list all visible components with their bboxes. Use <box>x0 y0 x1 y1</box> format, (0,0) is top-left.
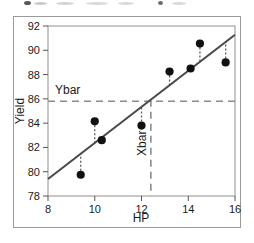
regression-line-group <box>48 35 235 179</box>
y-tick-label: 86 <box>28 93 40 105</box>
y-tick-label: 90 <box>28 44 40 56</box>
data-point <box>98 136 106 144</box>
y-tick-label: 82 <box>28 141 40 153</box>
y-tick-label: 88 <box>28 69 40 81</box>
plot-area-frame <box>48 26 235 196</box>
y-axis-title: Yield <box>13 98 27 124</box>
x-tick-label: 16 <box>229 203 241 215</box>
x-tick-label: 14 <box>182 203 194 215</box>
y-tick-label: 80 <box>28 166 40 178</box>
data-points-group <box>77 40 230 179</box>
x-tick-label: 8 <box>45 203 51 215</box>
y-axis-ticks: 7880828486889092 <box>28 20 48 202</box>
xbar-label: Xbar <box>135 131 149 156</box>
x-tick-label: 10 <box>89 203 101 215</box>
data-point <box>196 40 204 48</box>
data-point <box>91 117 99 125</box>
data-point <box>165 67 173 75</box>
data-point <box>137 121 145 129</box>
y-tick-label: 78 <box>28 190 40 202</box>
y-tick-label: 92 <box>28 20 40 32</box>
x-axis-title: HP <box>133 211 150 225</box>
data-point <box>186 64 194 72</box>
annotations-group: YbarXbar <box>55 83 149 156</box>
residual-lines-group <box>81 42 226 175</box>
regression-line <box>48 35 235 179</box>
figure-container: 7880828486889092 810121416 YbarXbar HP Y… <box>0 0 254 243</box>
ybar-label: Ybar <box>55 83 80 97</box>
y-tick-label: 84 <box>28 117 40 129</box>
data-point <box>77 171 85 179</box>
data-point <box>222 58 230 66</box>
scatter-plot: 7880828486889092 810121416 YbarXbar HP Y… <box>0 0 254 243</box>
